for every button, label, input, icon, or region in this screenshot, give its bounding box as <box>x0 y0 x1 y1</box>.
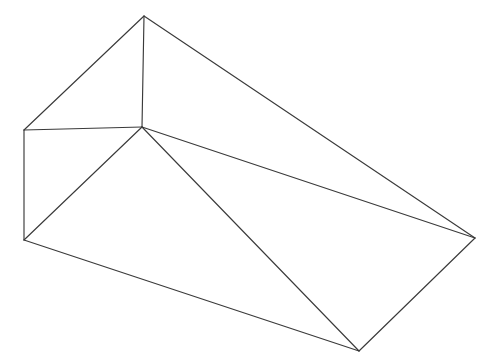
edge-left-upper-to-inner <box>24 127 142 130</box>
edge-inner-to-right-far <box>142 127 475 238</box>
edge-inner-to-bottom-far <box>142 127 359 351</box>
edge-left-lower-to-bottom-far <box>24 240 359 351</box>
edge-right-far-to-bottom-far <box>359 238 475 351</box>
wireframe-figure-canvas <box>0 0 487 360</box>
wireframe-svg <box>0 0 487 360</box>
edge-apex-to-right-far <box>144 16 475 238</box>
edge-apex-to-inner-bottom <box>142 16 144 127</box>
wireframe-edge-group <box>24 16 475 351</box>
edge-left-lower-to-inner <box>24 127 142 240</box>
edge-apex-to-left-upper <box>24 16 144 130</box>
